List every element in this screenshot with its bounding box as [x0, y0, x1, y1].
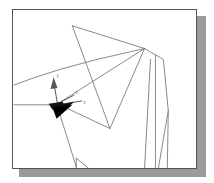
- origin-descender: [58, 107, 77, 167]
- y-axis-arrowhead: [51, 77, 58, 89]
- x-axis-label: x: [83, 100, 86, 105]
- wireframe-viewport[interactable]: y z x: [12, 9, 197, 169]
- y-axis-label: y: [57, 73, 60, 78]
- lower-right-edge: [167, 111, 168, 168]
- bottom-left-diagonal: [76, 158, 88, 168]
- wireframe-canvas: y z x: [13, 10, 196, 168]
- viewport-root: y z x: [0, 0, 214, 183]
- horizon-ridge-left: [14, 49, 145, 86]
- coordinate-axis-triad[interactable]: y z x: [49, 73, 87, 118]
- wireframe-geometry: [14, 26, 168, 168]
- upper-triangle-face: [72, 26, 144, 129]
- right-near-vertical-a: [145, 59, 151, 168]
- ridge-to-origin: [58, 49, 145, 104]
